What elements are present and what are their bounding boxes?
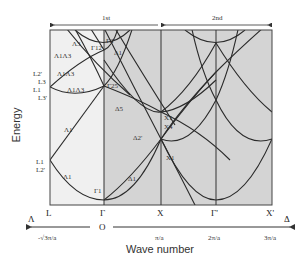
symmetry-x-prime: X'	[266, 208, 274, 218]
label-delta1-upper: Δ1	[114, 49, 123, 57]
label-x4: X4	[164, 123, 173, 131]
label-gamma12: Γ12	[91, 44, 103, 52]
label-L3: L3	[38, 78, 46, 86]
tick-3pi-a: 3π/a	[264, 234, 277, 242]
label-x1-lower: X1	[166, 154, 175, 162]
tick-neg-sqrt3-pi-a: -√3π/a	[38, 234, 57, 242]
label-delta1-lower: Δ1	[128, 175, 137, 183]
axis-delta-direction: Δ	[284, 214, 290, 224]
label-delta5: Δ5	[115, 105, 124, 113]
zone2-label: 2nd	[212, 14, 223, 22]
symmetry-L: L	[46, 208, 52, 218]
x-axis-title: Wave number	[126, 243, 194, 255]
label-gamma1: Γ1	[94, 187, 102, 195]
tick-pi-a: π/a	[155, 234, 164, 242]
symmetry-gamma-prime: Γ'	[211, 208, 218, 218]
label-gamma2p: Γ2'	[106, 37, 115, 45]
label-L1: L1	[33, 86, 41, 94]
zone1-label: 1st	[102, 14, 110, 22]
label-L3p: L3'	[38, 94, 47, 102]
y-axis-title: Energy	[10, 107, 22, 142]
label-lambda1-lambda3-b: Λ1Λ3	[57, 70, 75, 78]
band-structure-diagram: 1st 2nd L2' L3 L1 L3' L1 L2' Λ3 Λ1Λ3 Λ1Λ…	[0, 0, 308, 263]
symmetry-gamma: Γ	[100, 208, 105, 218]
label-lambda3: Λ3	[72, 40, 81, 48]
label-lambda1-upper: Λ1	[64, 126, 73, 134]
label-delta2p: Δ2'	[133, 134, 142, 142]
label-L2p-lower: L2'	[36, 166, 45, 174]
tick-2pi-a: 2π/a	[208, 234, 221, 242]
symmetry-x: X	[157, 208, 164, 218]
label-lambda1-lambda3-a: Λ1Λ3	[54, 52, 72, 60]
label-lambda1-lambda3-c: Λ1Λ3	[67, 86, 85, 94]
axis-lambda-direction: Λ	[28, 214, 35, 224]
label-L2p: L2'	[33, 70, 42, 78]
axis-origin: O	[99, 222, 106, 232]
label-L1-lower: L1	[36, 158, 44, 166]
label-x1-upper: X1	[164, 114, 173, 122]
label-lambda1-lower: Λ1	[63, 173, 72, 181]
label-gamma25p: Γ25'	[107, 82, 119, 90]
